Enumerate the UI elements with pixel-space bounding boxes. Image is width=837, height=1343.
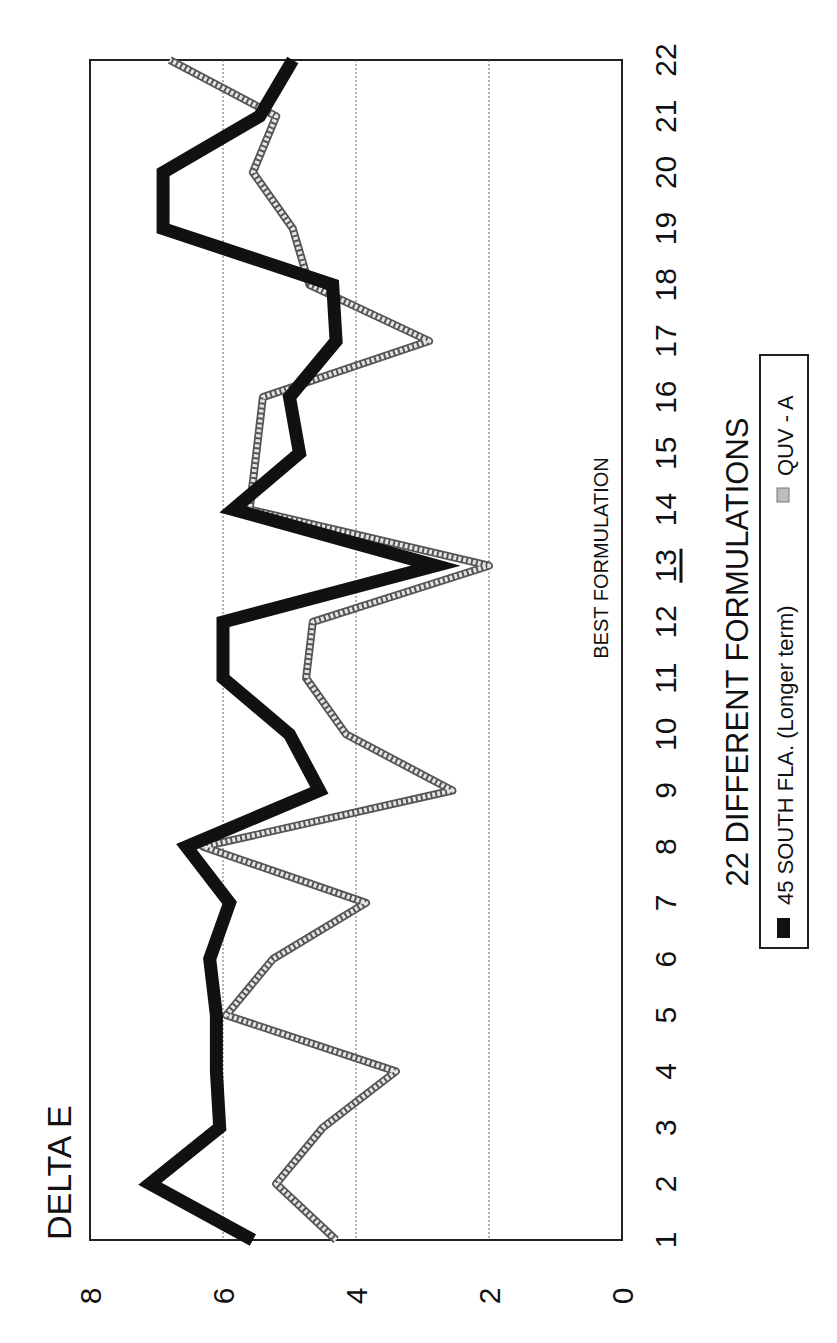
legend-label-quv-a: QUV - A	[773, 395, 798, 476]
y-tick-label: 8	[74, 1288, 107, 1305]
y-tick-label: 2	[473, 1288, 506, 1305]
legend: 45 SOUTH FLA. (Longer term) QUV - A	[760, 355, 808, 948]
x-axis-ticks: 12345678910111213141516171819202122	[649, 43, 682, 1248]
x-tick-label: 8	[649, 838, 682, 855]
x-tick-label: 13	[649, 549, 682, 582]
x-tick-label: 3	[649, 1119, 682, 1136]
y-tick-label: 0	[606, 1288, 639, 1305]
chart-title: DELTA E	[40, 1105, 78, 1240]
x-tick-label: 12	[649, 605, 682, 638]
x-tick-label: 20	[649, 156, 682, 189]
legend-label-south-fla: 45 SOUTH FLA. (Longer term)	[773, 605, 798, 905]
x-tick-label: 14	[649, 493, 682, 526]
y-tick-label: 4	[340, 1288, 373, 1305]
x-tick-label: 22	[649, 43, 682, 76]
x-tick-label: 21	[649, 100, 682, 133]
x-tick-label: 2	[649, 1175, 682, 1192]
x-tick-label: 7	[649, 895, 682, 912]
x-tick-label: 18	[649, 268, 682, 301]
x-tick-label: 4	[649, 1063, 682, 1080]
y-axis-ticks: 02468	[74, 1288, 639, 1305]
x-tick-label: 10	[649, 718, 682, 751]
y-tick-label: 6	[207, 1288, 240, 1305]
delta-e-line-chart: 02468 1234567891011121314151617181920212…	[0, 0, 837, 1343]
x-tick-label: 11	[649, 663, 682, 694]
legend-swatch-quv-a	[777, 488, 789, 502]
x-tick-label: 16	[649, 380, 682, 413]
x-tick-label: 1	[649, 1232, 682, 1249]
best-formulation-annotation: BEST FORMULATION	[590, 457, 612, 659]
x-tick-label: 5	[649, 1007, 682, 1024]
x-axis-title: 22 DIFFERENT FORMULATIONS	[720, 417, 755, 886]
x-tick-label: 19	[649, 212, 682, 245]
x-tick-label: 17	[649, 324, 682, 357]
x-tick-label: 15	[649, 437, 682, 470]
legend-swatch-south-fla	[777, 918, 790, 938]
x-tick-label: 9	[649, 782, 682, 799]
x-tick-label: 6	[649, 951, 682, 968]
